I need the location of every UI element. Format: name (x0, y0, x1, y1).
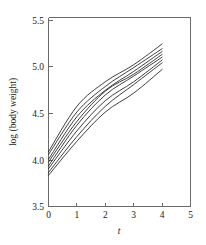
x-tick-marks (49, 203, 191, 207)
y-tick-labels: 5.5 5.0 4.5 4.0 3.5 (32, 16, 44, 212)
y-tick-label-4_5: 4.5 (32, 109, 44, 119)
x-tick-label-3: 3 (131, 210, 136, 220)
series-line-7 (49, 63, 163, 173)
x-tick-labels: 0 1 2 3 4 5 (46, 210, 193, 220)
x-axis-title: t (118, 226, 121, 236)
x-tick-label-0: 0 (46, 210, 51, 220)
y-tick-label-4_0: 4.0 (32, 156, 44, 166)
y-tick-marks (49, 21, 53, 207)
series-line-3 (49, 52, 163, 160)
chart-figure: 5.5 5.0 4.5 4.0 3.5 0 1 2 3 4 5 t log (b… (0, 0, 206, 245)
y-tick-label-3_5: 3.5 (32, 202, 44, 212)
x-tick-label-1: 1 (75, 210, 80, 220)
y-axis-title: log (body weight) (8, 78, 19, 146)
x-tick-label-5: 5 (188, 210, 193, 220)
y-tick-label-5_5: 5.5 (32, 16, 44, 26)
x-tick-label-2: 2 (103, 210, 108, 220)
x-tick-label-4: 4 (160, 210, 165, 220)
axis-frame (49, 18, 191, 207)
spaghetti-plot: 5.5 5.0 4.5 4.0 3.5 0 1 2 3 4 5 t log (b… (0, 0, 206, 245)
series-group (49, 44, 163, 175)
y-tick-label-5_0: 5.0 (32, 62, 44, 72)
series-line-2 (49, 49, 163, 155)
